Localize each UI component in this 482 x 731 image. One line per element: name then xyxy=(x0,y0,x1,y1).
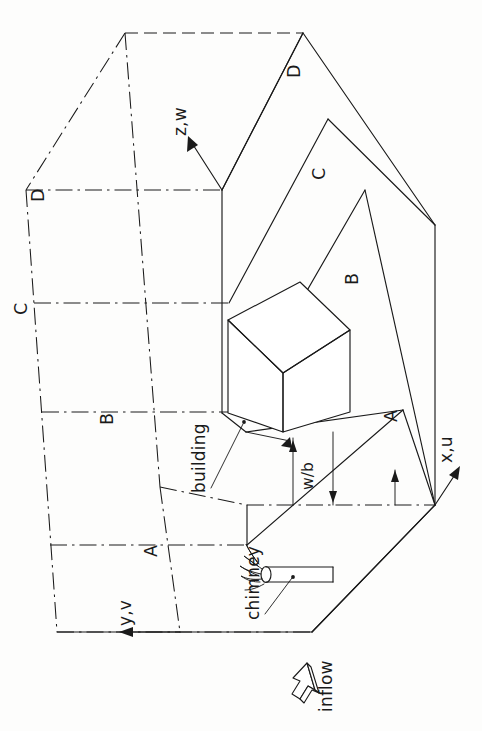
chimney-leader-line xyxy=(265,578,292,614)
axis-z: z,w xyxy=(170,107,222,190)
building-leader-dot xyxy=(242,420,246,424)
chimney-leader-dot xyxy=(291,575,295,579)
section-plane-A-right xyxy=(247,410,403,545)
axis-y-arrowhead-icon xyxy=(119,627,133,637)
chimney-label: chimney xyxy=(243,546,263,620)
plane-label-right-D: D xyxy=(284,65,304,78)
plane-label-right-A: A xyxy=(381,410,401,422)
dimension-label-w-over-b: w/b xyxy=(299,462,317,490)
section-plane-D-right xyxy=(222,33,303,190)
building-leader-line xyxy=(211,424,243,488)
plane-label-left-D: D xyxy=(28,189,48,202)
domain-edge-back-left-upper xyxy=(26,33,125,190)
axis-y-label: y,v xyxy=(115,600,135,626)
plane-label-right-B: B xyxy=(342,273,362,285)
axis-x-label: x,u xyxy=(436,436,456,463)
sweep-arrow-a xyxy=(281,437,292,448)
sweep-line-a xyxy=(246,432,290,441)
building-callout: building xyxy=(189,420,246,493)
dimension-arrow-lower xyxy=(329,491,337,503)
domain-edge-back-center-vertical xyxy=(125,33,160,487)
figure-root: z,w x,u y,v D C B A D C B A w/b buildi xyxy=(0,0,482,731)
inflow-marker: inflow xyxy=(292,660,336,712)
section-edge-C-upper xyxy=(328,119,435,225)
domain-edge-back-left-vertical xyxy=(26,190,57,632)
plane-label-right-C: C xyxy=(309,168,329,180)
axis-x: x,u xyxy=(435,436,460,505)
chimney-callout: chimney xyxy=(243,546,295,620)
domain-edge-back-center-vertical-lower xyxy=(160,487,180,632)
roof-sweep-leader xyxy=(246,432,292,448)
inflow-label: inflow xyxy=(316,660,336,712)
axis-z-label: z,w xyxy=(170,107,190,136)
section-edge-A-short xyxy=(403,410,435,505)
building-block xyxy=(228,282,350,432)
plane-label-left-B: B xyxy=(97,413,117,425)
building-label: building xyxy=(189,423,209,493)
axis-z-line xyxy=(190,140,222,190)
axis-y: y,v xyxy=(115,600,180,637)
angle-tick-arrow xyxy=(391,470,399,482)
plane-label-left-A: A xyxy=(141,545,161,557)
axis-x-arrowhead-icon xyxy=(449,466,460,480)
domain-diagram: z,w x,u y,v D C B A D C B A w/b buildi xyxy=(0,0,482,731)
section-edge-B-long xyxy=(365,190,435,505)
plane-label-left-C: C xyxy=(11,303,31,315)
